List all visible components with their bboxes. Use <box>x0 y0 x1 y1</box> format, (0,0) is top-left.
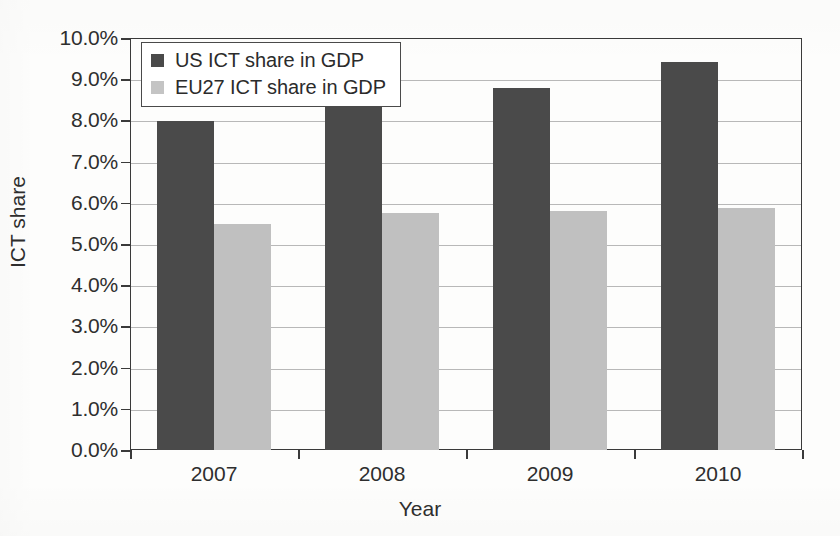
y-tick-mark <box>121 203 130 205</box>
y-tick-mark <box>121 244 130 246</box>
y-tick-label: 5.0% <box>26 232 118 256</box>
x-tick-mark <box>802 450 804 459</box>
y-tick-mark <box>121 162 130 164</box>
y-tick-label: 2.0% <box>26 356 118 380</box>
y-tick-mark <box>121 79 130 81</box>
x-tick-label-2010: 2010 <box>695 462 742 486</box>
y-tick-label: 6.0% <box>26 191 118 215</box>
x-axis-title: Year <box>0 497 840 521</box>
legend-swatch-icon <box>151 81 164 94</box>
legend-item-us[interactable]: US ICT share in GDP <box>151 47 386 74</box>
x-tick-label-2007: 2007 <box>191 462 238 486</box>
chart-legend: US ICT share in GDP EU27 ICT share in GD… <box>141 42 401 107</box>
y-tick-label: 10.0% <box>26 26 118 50</box>
y-tick-label: 7.0% <box>26 150 118 174</box>
y-tick-label: 4.0% <box>26 273 118 297</box>
y-tick-mark <box>121 409 130 411</box>
legend-item-eu27[interactable]: EU27 ICT share in GDP <box>151 74 386 101</box>
x-tick-label-2008: 2008 <box>359 462 406 486</box>
y-tick-label: 1.0% <box>26 397 118 421</box>
bar-eu27-2010[interactable] <box>718 208 775 450</box>
y-tick-mark <box>121 38 130 40</box>
bar-us-2007[interactable] <box>157 121 214 450</box>
bar-us-2010[interactable] <box>661 62 718 450</box>
x-tick-mark <box>634 450 636 459</box>
y-tick-mark <box>121 285 130 287</box>
x-tick-mark <box>466 450 468 459</box>
y-tick-mark <box>121 450 130 452</box>
bar-eu27-2007[interactable] <box>214 224 271 450</box>
y-tick-mark <box>121 326 130 328</box>
x-tick-mark <box>130 450 132 459</box>
bar-eu27-2008[interactable] <box>382 213 439 450</box>
y-tick-label: 8.0% <box>26 108 118 132</box>
legend-label: EU27 ICT share in GDP <box>175 76 386 99</box>
bar-eu27-2009[interactable] <box>550 211 607 450</box>
y-tick-mark <box>121 368 130 370</box>
bar-us-2008[interactable] <box>325 101 382 450</box>
x-tick-label-2009: 2009 <box>527 462 574 486</box>
legend-swatch-icon <box>151 54 164 67</box>
chart-figure: ICT share 0.0%1.0%2.0%3.0%4.0%5.0%6.0%7.… <box>0 0 840 536</box>
x-tick-mark <box>298 450 300 459</box>
y-tick-label: 3.0% <box>26 314 118 338</box>
legend-label: US ICT share in GDP <box>175 49 364 72</box>
y-tick-mark <box>121 120 130 122</box>
y-tick-label: 9.0% <box>26 67 118 91</box>
y-tick-label: 0.0% <box>26 438 118 462</box>
bar-us-2009[interactable] <box>493 88 550 450</box>
